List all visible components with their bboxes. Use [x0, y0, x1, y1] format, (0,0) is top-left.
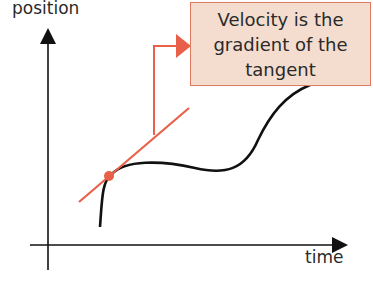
callout-box: Velocity is the gradient of the tangent	[190, 2, 371, 86]
tangent-point	[104, 171, 114, 181]
callout-line-1: Velocity is the	[218, 9, 344, 30]
y-axis-label: position	[12, 0, 79, 18]
callout-line-2: gradient of the	[213, 34, 347, 55]
callout-line-3: tangent	[245, 59, 315, 80]
tangent-line	[79, 108, 189, 202]
connector-arrowhead-icon	[176, 34, 191, 58]
x-axis-label: time	[305, 247, 343, 267]
